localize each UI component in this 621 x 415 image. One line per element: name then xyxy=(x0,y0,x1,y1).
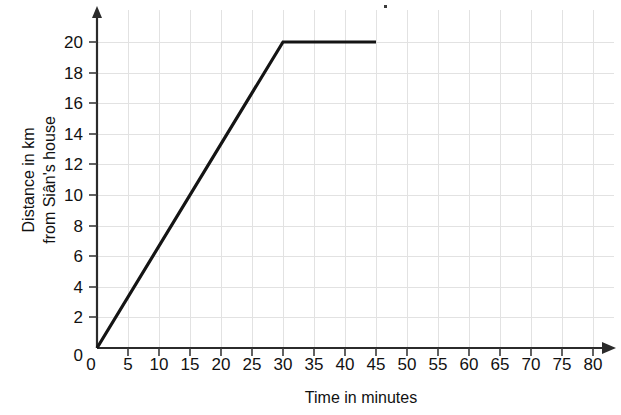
y-tick-label: 2 xyxy=(74,308,83,327)
x-tick-label: 45 xyxy=(367,355,386,374)
x-tick-label: 30 xyxy=(274,355,293,374)
y-tick-label: 20 xyxy=(64,33,83,52)
y-tick-label: 6 xyxy=(74,247,83,266)
distance-time-graph: 0 5 10 15 20 25 30 35 40 45 50 55 60 65 … xyxy=(0,0,621,415)
x-tick-label: 10 xyxy=(150,355,169,374)
y-tick-labels: 0 2 4 6 8 10 12 14 16 18 20 xyxy=(64,33,83,365)
x-tick-label: 70 xyxy=(522,355,541,374)
x-tick-label: 15 xyxy=(181,355,200,374)
y-tick-label: 12 xyxy=(64,155,83,174)
x-tick-label: 50 xyxy=(398,355,417,374)
y-tick-label: 8 xyxy=(74,217,83,236)
x-tick-label: 60 xyxy=(460,355,479,374)
scan-speck xyxy=(384,5,387,8)
x-tick-label: 80 xyxy=(584,355,603,374)
y-axis-title-line1: Distance in km xyxy=(20,128,37,233)
y-tick-label: 16 xyxy=(64,94,83,113)
y-tick-label: 4 xyxy=(74,278,83,297)
x-tick-label: 75 xyxy=(553,355,572,374)
x-tick-label: 20 xyxy=(212,355,231,374)
x-tick-label: 40 xyxy=(336,355,355,374)
x-tick-label: 25 xyxy=(243,355,262,374)
x-tick-labels: 0 5 10 15 20 25 30 35 40 45 50 55 60 65 … xyxy=(86,355,602,374)
x-tick-label: 55 xyxy=(429,355,448,374)
x-tick-label: 65 xyxy=(491,355,510,374)
y-tick-label: 14 xyxy=(64,125,83,144)
x-tick-label: 5 xyxy=(123,355,132,374)
y-tick-label: 10 xyxy=(64,186,83,205)
y-tick-marks xyxy=(89,42,97,317)
chart-canvas: 0 5 10 15 20 25 30 35 40 45 50 55 60 65 … xyxy=(0,0,621,415)
y-tick-label: 18 xyxy=(64,64,83,83)
x-tick-label: 35 xyxy=(305,355,324,374)
axis-lines xyxy=(92,6,616,354)
y-axis-arrow-icon xyxy=(92,6,102,18)
y-axis-title-line2: from Siân's house xyxy=(41,116,58,244)
y-tick-label: 0 xyxy=(74,346,83,365)
grid-vertical xyxy=(128,10,593,348)
x-axis-arrow-icon xyxy=(602,342,616,354)
x-axis-title: Time in minutes xyxy=(305,389,417,406)
x-tick-label: 0 xyxy=(86,355,95,374)
grid-horizontal xyxy=(97,42,614,317)
